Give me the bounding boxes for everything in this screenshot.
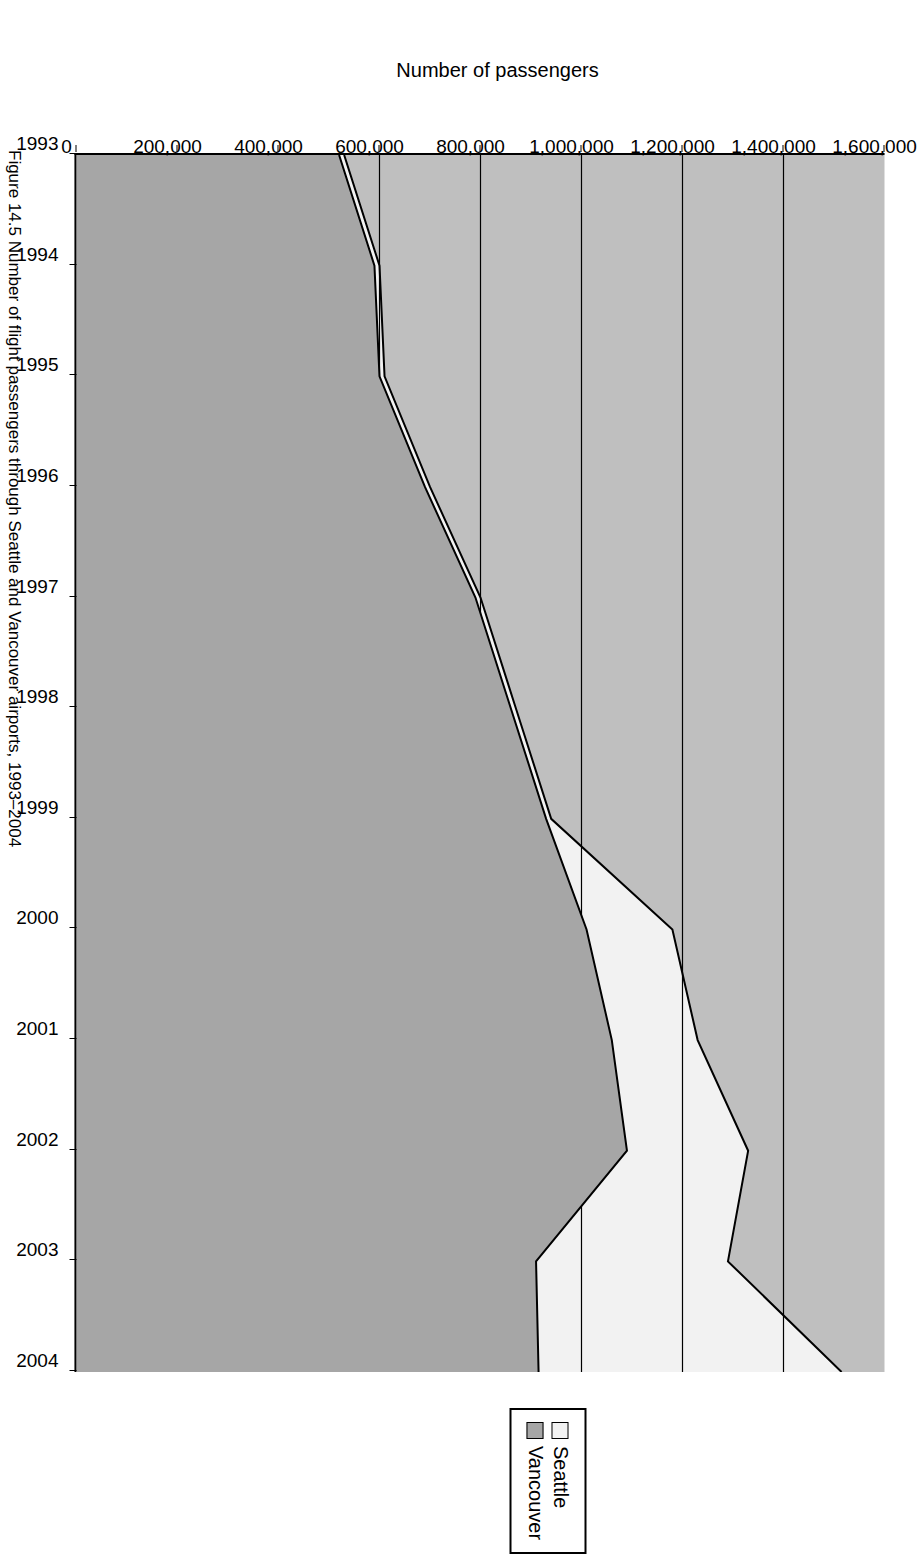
x-tick-label: 2000 (16, 908, 58, 927)
y-tick-label: 1,600,000 (832, 137, 917, 156)
x-tick (69, 596, 76, 597)
x-tick (69, 1370, 76, 1371)
x-tick (69, 374, 76, 375)
plot-area (74, 153, 884, 1372)
x-tick (69, 485, 76, 486)
legend-item-seattle: Seattle (550, 1422, 570, 1540)
x-tick (69, 817, 76, 818)
y-tick-label: 1,400,000 (731, 137, 816, 156)
x-tick (69, 706, 76, 707)
area-chart-svg (76, 155, 884, 1372)
y-tick-label: 600,000 (335, 137, 404, 156)
legend-swatch-seattle (552, 1422, 569, 1439)
x-tick (69, 264, 76, 265)
y-tick (75, 145, 76, 152)
x-tick (69, 1149, 76, 1150)
y-tick-label: 1,000,000 (529, 137, 614, 156)
figure-caption: Figure 14.5 Number of flight passengers … (3, 150, 23, 847)
y-axis-title: Number of passengers (396, 60, 598, 80)
x-tick-label: 2003 (16, 1240, 58, 1259)
y-tick-label: 1,200,000 (630, 137, 715, 156)
legend-item-vancouver: Vancouver (525, 1422, 545, 1540)
x-tick-label: 2001 (16, 1019, 58, 1038)
y-tick-label: 400,000 (234, 137, 303, 156)
area-vancouver (76, 155, 626, 1372)
legend-label-vancouver: Vancouver (525, 1446, 545, 1540)
x-tick (69, 927, 76, 928)
y-tick-label: 200,000 (133, 137, 202, 156)
legend: Seattle Vancouver (509, 1408, 586, 1554)
legend-label-seattle: Seattle (550, 1446, 570, 1508)
x-tick-label: 2004 (16, 1351, 58, 1370)
x-tick (69, 1259, 76, 1260)
y-tick-label: 0 (61, 137, 72, 156)
y-tick-label: 800,000 (436, 137, 505, 156)
x-tick (69, 1038, 76, 1039)
x-tick-label: 2002 (16, 1129, 58, 1148)
legend-swatch-vancouver (527, 1422, 544, 1439)
